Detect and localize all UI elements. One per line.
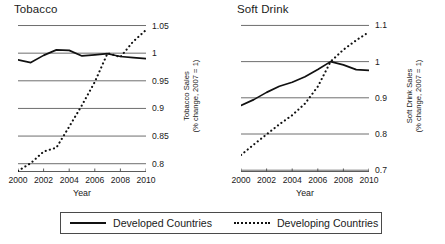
figure-caption-clipped	[0, 238, 445, 244]
x-tick-label: 2002	[34, 176, 53, 185]
y-tick-label: 1	[375, 57, 380, 66]
y-tick-label: 0.85	[152, 132, 169, 141]
x-tick-label: 2010	[136, 176, 155, 185]
y-axis-title-tobacco: Tobacco Sales (% change, 2007 = 1)	[176, 20, 206, 172]
y-tick-label: 1.1	[375, 21, 387, 30]
x-axis-tick-labels-tobacco: 200020022004200620082010	[4, 176, 164, 188]
panel-soft-drink: Soft Drink 0.70.80.911.1 200020022004200…	[223, 0, 445, 200]
legend-line-sample-solid-icon	[70, 222, 106, 224]
legend-entry-developed: Developed Countries	[70, 213, 212, 233]
x-tick-label: 2002	[257, 176, 276, 185]
x-axis-title-soft-drink: Year	[241, 188, 369, 198]
x-tick-label: 2010	[359, 176, 378, 185]
y-tick-label: 1	[152, 49, 157, 58]
chart-svg-tobacco	[18, 20, 146, 172]
x-tick-label: 2008	[111, 176, 130, 185]
y-tick-label: 0.95	[152, 77, 169, 86]
y-axis-title-main-tobacco: Tobacco Sales	[182, 71, 191, 120]
y-tick-label: 1.05	[152, 21, 169, 30]
x-tick-label: 2004	[283, 176, 302, 185]
x-tick-label: 2004	[60, 176, 79, 185]
plot-area-tobacco	[18, 20, 146, 172]
legend-line-sample-dashed-icon	[234, 222, 270, 224]
legend-label-developing: Developing Countries	[277, 217, 378, 229]
chart-legend: Developed Countries Developing Countries	[60, 212, 382, 234]
y-tick-label: 0.8	[375, 130, 387, 139]
y-tick-label: 0.9	[375, 94, 387, 103]
panel-title-soft-drink: Soft Drink	[237, 3, 289, 15]
legend-entry-developing: Developing Countries	[234, 213, 378, 233]
panel-tobacco: Tobacco 0.80.850.90.9511.05 200020022004…	[0, 0, 222, 200]
x-tick-label: 2006	[85, 176, 104, 185]
x-tick-label: 2000	[8, 176, 27, 185]
series-line-solid	[18, 50, 146, 63]
x-axis-title-tobacco: Year	[18, 188, 146, 198]
series-line-dashed	[18, 30, 146, 171]
y-axis-title-sub-soft-drink: (% change, 2007 = 1)	[414, 60, 423, 133]
y-tick-label: 0.8	[152, 159, 164, 168]
panel-title-tobacco: Tobacco	[14, 3, 58, 15]
x-tick-label: 2008	[334, 176, 353, 185]
series-line-solid	[241, 62, 369, 106]
y-axis-title-sub-tobacco: (% change, 2007 = 1)	[191, 60, 200, 133]
legend-label-developed: Developed Countries	[113, 217, 212, 229]
y-tick-label: 0.9	[152, 104, 164, 113]
series-line-dashed	[241, 32, 369, 155]
figure-two-panel-line-charts: Tobacco 0.80.850.90.9511.05 200020022004…	[0, 0, 445, 244]
y-axis-title-soft-drink: Soft Drink Sales (% change, 2007 = 1)	[399, 20, 429, 172]
x-tick-label: 2000	[231, 176, 250, 185]
plot-area-soft-drink	[241, 20, 369, 172]
y-axis-title-main-soft-drink: Soft Drink Sales	[405, 69, 414, 123]
x-tick-label: 2006	[308, 176, 327, 185]
y-tick-label: 0.7	[375, 166, 387, 175]
chart-svg-soft-drink	[241, 20, 369, 172]
x-axis-tick-labels-soft-drink: 200020022004200620082010	[227, 176, 387, 188]
